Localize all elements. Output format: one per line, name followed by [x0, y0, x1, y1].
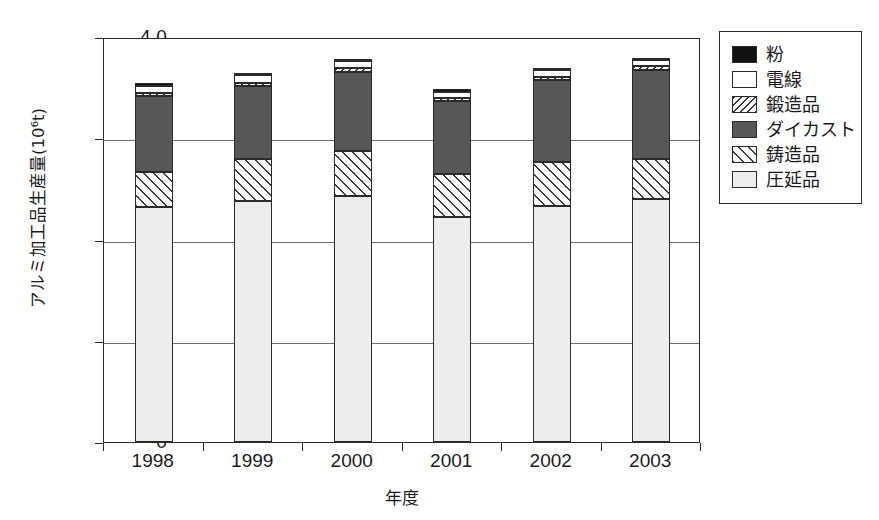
forward-hatch-swatch [732, 146, 757, 163]
legend-item-鍛造品: 鍛造品 [732, 92, 851, 117]
bar-segment-ダイカスト-2000 [334, 72, 372, 151]
bar-segment-鋳造品-2002 [533, 162, 571, 207]
bar-segment-電線-2001 [433, 92, 471, 98]
backward-hatch-swatch [732, 96, 757, 113]
bar-segment-電線-1999 [234, 75, 272, 82]
bar-segment-鍛造品-2002 [533, 77, 571, 80]
bar-segment-粉-1998 [135, 83, 173, 86]
bar-segment-鍛造品-1999 [234, 83, 272, 86]
bar-segment-鋳造品-2003 [632, 159, 670, 200]
x-tick-mark [501, 443, 502, 451]
y-tick-mark [95, 342, 103, 343]
bar-segment-圧延品-1999 [234, 201, 272, 442]
bar-2002 [533, 37, 571, 442]
bar-segment-鍛造品-2003 [632, 66, 670, 70]
bar-2003 [632, 37, 670, 442]
bar-segment-鋳造品-1999 [234, 159, 272, 202]
x-tick-mark [402, 443, 403, 451]
bar-1998 [135, 37, 173, 442]
bar-segment-鍛造品-1998 [135, 93, 173, 96]
bar-segment-圧延品-1998 [135, 207, 173, 442]
bar-segment-電線-2002 [533, 70, 571, 76]
y-tick-mark [95, 139, 103, 140]
dark-gray-solid-swatch [732, 121, 757, 138]
bar-2001 [433, 37, 471, 442]
x-tick-mark [700, 443, 701, 451]
bar-segment-ダイカスト-1999 [234, 86, 272, 159]
legend-box: 粉電線鍛造品ダイカスト鋳造品圧延品 [719, 31, 862, 204]
x-tick-label-1998: 1998 [108, 450, 198, 472]
x-tick-mark [601, 443, 602, 451]
legend-label: 電線 [766, 71, 802, 89]
x-tick-label-2000: 2000 [307, 450, 397, 472]
x-tick-label-2002: 2002 [506, 450, 596, 472]
gridline [104, 140, 699, 141]
bar-segment-電線-2003 [632, 60, 670, 66]
bar-segment-鋳造品-2001 [433, 174, 471, 218]
bar-segment-粉-2000 [334, 59, 372, 62]
y-axis-title: アルミ加工品生産量(10⁶t) [25, 43, 49, 373]
bar-segment-圧延品-2000 [334, 196, 372, 442]
bar-segment-粉-2002 [533, 68, 571, 71]
legend-label: ダイカスト [766, 121, 856, 139]
bar-segment-電線-1998 [135, 86, 173, 93]
black-solid-swatch [732, 46, 757, 63]
bar-segment-ダイカスト-1998 [135, 96, 173, 172]
x-axis-title: 年度 [103, 484, 700, 509]
legend-label: 鍛造品 [766, 96, 820, 114]
bar-segment-ダイカスト-2001 [433, 101, 471, 174]
light-gray-solid-swatch [732, 171, 757, 188]
white-solid-swatch [732, 71, 757, 88]
x-tick-label-1999: 1999 [207, 450, 297, 472]
bar-segment-粉-2003 [632, 58, 670, 61]
bar-1999 [234, 37, 272, 442]
x-tick-mark [103, 443, 104, 451]
y-tick-mark [95, 38, 103, 39]
y-tick-mark [95, 241, 103, 242]
legend-item-圧延品: 圧延品 [732, 167, 851, 192]
bar-segment-鍛造品-2000 [334, 68, 372, 72]
bar-segment-鍛造品-2001 [433, 98, 471, 101]
plot-area [103, 38, 700, 443]
bar-segment-圧延品-2003 [632, 199, 670, 442]
x-tick-mark [203, 443, 204, 451]
bar-segment-ダイカスト-2003 [632, 70, 670, 158]
bar-segment-電線-2000 [334, 61, 372, 68]
stacked-bar-chart-figure: アルミ加工品生産量(10⁶t) 01.02.03.04.0 1998199920… [0, 0, 879, 520]
bar-segment-粉-1999 [234, 73, 272, 76]
x-tick-mark [302, 443, 303, 451]
bar-segment-圧延品-2001 [433, 217, 471, 442]
legend-item-電線: 電線 [732, 67, 851, 92]
legend-label: 圧延品 [766, 171, 820, 189]
bar-segment-圧延品-2002 [533, 206, 571, 442]
y-tick-mark [95, 443, 103, 444]
legend-item-ダイカスト: ダイカスト [732, 117, 851, 142]
bar-segment-鋳造品-1998 [135, 172, 173, 207]
gridline [104, 242, 699, 243]
x-tick-label-2003: 2003 [605, 450, 695, 472]
legend-label: 鋳造品 [766, 146, 820, 164]
bar-2000 [334, 37, 372, 442]
gridline [104, 343, 699, 344]
legend-item-鋳造品: 鋳造品 [732, 142, 851, 167]
bar-segment-ダイカスト-2002 [533, 80, 571, 162]
bar-segment-鋳造品-2000 [334, 151, 372, 196]
x-tick-label-2001: 2001 [406, 450, 496, 472]
bar-segment-粉-2001 [433, 89, 471, 92]
legend-item-粉: 粉 [732, 42, 851, 67]
legend-label: 粉 [766, 46, 784, 64]
